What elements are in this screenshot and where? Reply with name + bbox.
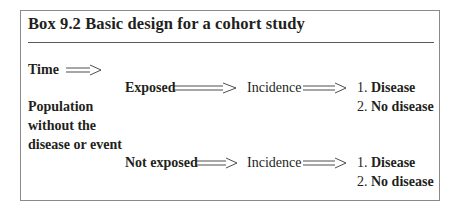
time-arrow-icon — [66, 64, 102, 76]
exposed-incidence-arrow-icon — [303, 82, 347, 94]
not-exposed-arrow-icon — [196, 157, 238, 169]
branch-exposed-group: Exposed — [125, 79, 176, 96]
time-label: Time — [28, 61, 59, 78]
exposed-outcome-no-disease: 2. No disease — [357, 98, 434, 115]
population-label-line1: Population — [28, 98, 93, 115]
branch-not-exposed-measure: Incidence — [247, 154, 301, 171]
exposed-arrow-icon — [173, 82, 237, 94]
branch-not-exposed-group: Not exposed — [125, 154, 198, 171]
box-title: Box 9.2 Basic design for a cohort study — [28, 14, 305, 34]
title-rule — [28, 42, 434, 43]
exposed-outcome-disease: 1. Disease — [357, 79, 415, 96]
not-exposed-outcome-disease: 1. Disease — [357, 154, 415, 171]
not-exposed-outcome-no-disease: 2. No disease — [357, 173, 434, 190]
not-exposed-incidence-arrow-icon — [303, 157, 347, 169]
population-label-line2: without the — [28, 117, 96, 134]
branch-exposed-measure: Incidence — [247, 79, 301, 96]
population-label-line3: disease or event — [28, 136, 122, 153]
